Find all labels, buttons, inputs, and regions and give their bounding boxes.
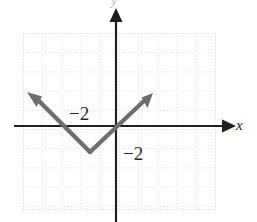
coordinate-plane [0, 0, 257, 222]
graph-figure: x y −2 −2 [0, 0, 257, 222]
x-axis-label: x [236, 118, 243, 133]
y-axis-label: y [111, 0, 117, 8]
y-intercept-label-neg-two: −2 [123, 144, 143, 163]
x-intercept-label-neg-two: −2 [69, 104, 89, 123]
